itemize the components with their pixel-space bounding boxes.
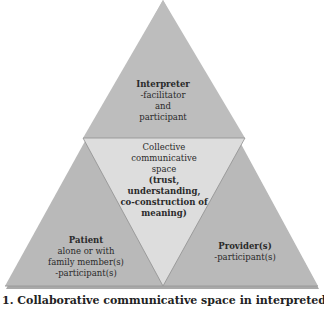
center-bold-line-3: co-construction of	[104, 197, 224, 208]
interpreter-title: Interpreter	[113, 79, 213, 90]
interpreter-line-3: participant	[113, 112, 213, 123]
center-line-2: communicative	[104, 153, 224, 164]
patient-line-3: -participant(s)	[36, 268, 136, 279]
patient-line-1: alone or with	[36, 246, 136, 257]
interpreter-line-1: -facilitator	[113, 90, 213, 101]
interpreter-line-2: and	[113, 101, 213, 112]
center-label: Collective communicative space (trust, u…	[104, 142, 224, 219]
center-bold-line-1: (trust,	[104, 175, 224, 186]
patient-title: Patient	[36, 235, 136, 246]
provider-label: Provider(s) -participant(s)	[200, 241, 290, 263]
center-line-3: space	[104, 164, 224, 175]
patient-label: Patient alone or with family member(s) -…	[36, 235, 136, 279]
provider-title: Provider(s)	[200, 241, 290, 252]
interpreter-label: Interpreter -facilitator and participant	[113, 79, 213, 123]
figure-caption: 1. Collaborative communicative space in …	[0, 294, 324, 307]
center-bold-line-2: understanding,	[104, 186, 224, 197]
center-line-1: Collective	[104, 142, 224, 153]
provider-line-1: -participant(s)	[200, 252, 290, 263]
patient-line-2: family member(s)	[36, 257, 136, 268]
center-bold-line-4: meaning)	[104, 208, 224, 219]
